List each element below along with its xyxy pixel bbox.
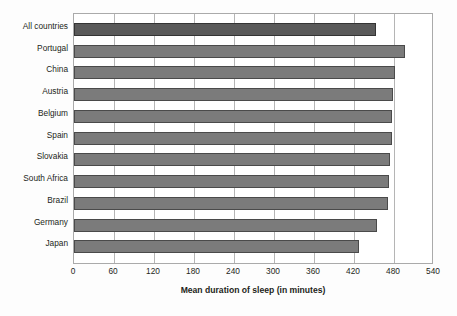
chart-figure: All countriesPortugalChinaAustriaBelgium… xyxy=(0,0,457,316)
category-label: Slovakia xyxy=(0,151,68,161)
x-tick-label: 180 xyxy=(186,266,200,277)
category-label: China xyxy=(0,64,68,74)
bar xyxy=(74,132,392,145)
x-axis-title: Mean duration of sleep (in minutes) xyxy=(73,285,433,295)
bar xyxy=(74,197,388,210)
x-tick-label: 360 xyxy=(306,266,320,277)
category-label: Spain xyxy=(0,130,68,140)
y-axis-category-labels: All countriesPortugalChinaAustriaBelgium… xyxy=(0,13,68,264)
bar xyxy=(74,45,405,58)
category-label: Portugal xyxy=(0,43,68,53)
bar xyxy=(74,88,393,101)
bar-row xyxy=(74,194,432,214)
x-tick-label: 60 xyxy=(108,266,117,277)
x-tick-label: 480 xyxy=(386,266,400,277)
x-tick-label: 120 xyxy=(146,266,160,277)
bar xyxy=(74,240,359,253)
bar-row xyxy=(74,63,432,83)
x-tick-label: 420 xyxy=(346,266,360,277)
x-axis-tick-labels: 060120180240300360420480540 xyxy=(0,266,457,280)
x-tick-label: 300 xyxy=(266,266,280,277)
category-label: Belgium xyxy=(0,108,68,118)
bar-row xyxy=(74,107,432,127)
bar xyxy=(74,110,392,123)
bar xyxy=(74,175,389,188)
category-label: Brazil xyxy=(0,195,68,205)
bar xyxy=(74,219,377,232)
category-label: South Africa xyxy=(0,173,68,183)
bar-row xyxy=(74,150,432,170)
category-label: Germany xyxy=(0,217,68,227)
bar-row xyxy=(74,237,432,257)
x-tick-label: 540 xyxy=(426,266,440,277)
x-tick-label: 0 xyxy=(71,266,76,277)
bar-row xyxy=(74,216,432,236)
bar xyxy=(74,66,395,79)
plot-area xyxy=(73,13,433,264)
category-label: All countries xyxy=(0,21,68,31)
category-label: Austria xyxy=(0,86,68,96)
bar xyxy=(74,153,390,166)
category-label: Japan xyxy=(0,238,68,248)
bar-row xyxy=(74,85,432,105)
x-tick-label: 240 xyxy=(226,266,240,277)
bar-row xyxy=(74,172,432,192)
bar xyxy=(74,23,376,36)
bar-row xyxy=(74,42,432,62)
bar-series xyxy=(74,14,432,263)
bar-row xyxy=(74,129,432,149)
bar-row xyxy=(74,20,432,40)
